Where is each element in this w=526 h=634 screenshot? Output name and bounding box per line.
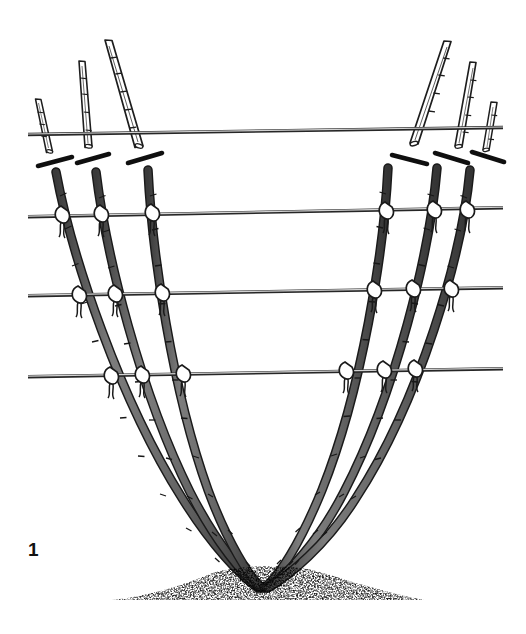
figure-number-label: 1 — [28, 540, 39, 559]
fan-trained-cane-illustration — [0, 0, 526, 634]
illustration-background — [0, 0, 526, 634]
figure-container: 1 — [0, 0, 526, 634]
